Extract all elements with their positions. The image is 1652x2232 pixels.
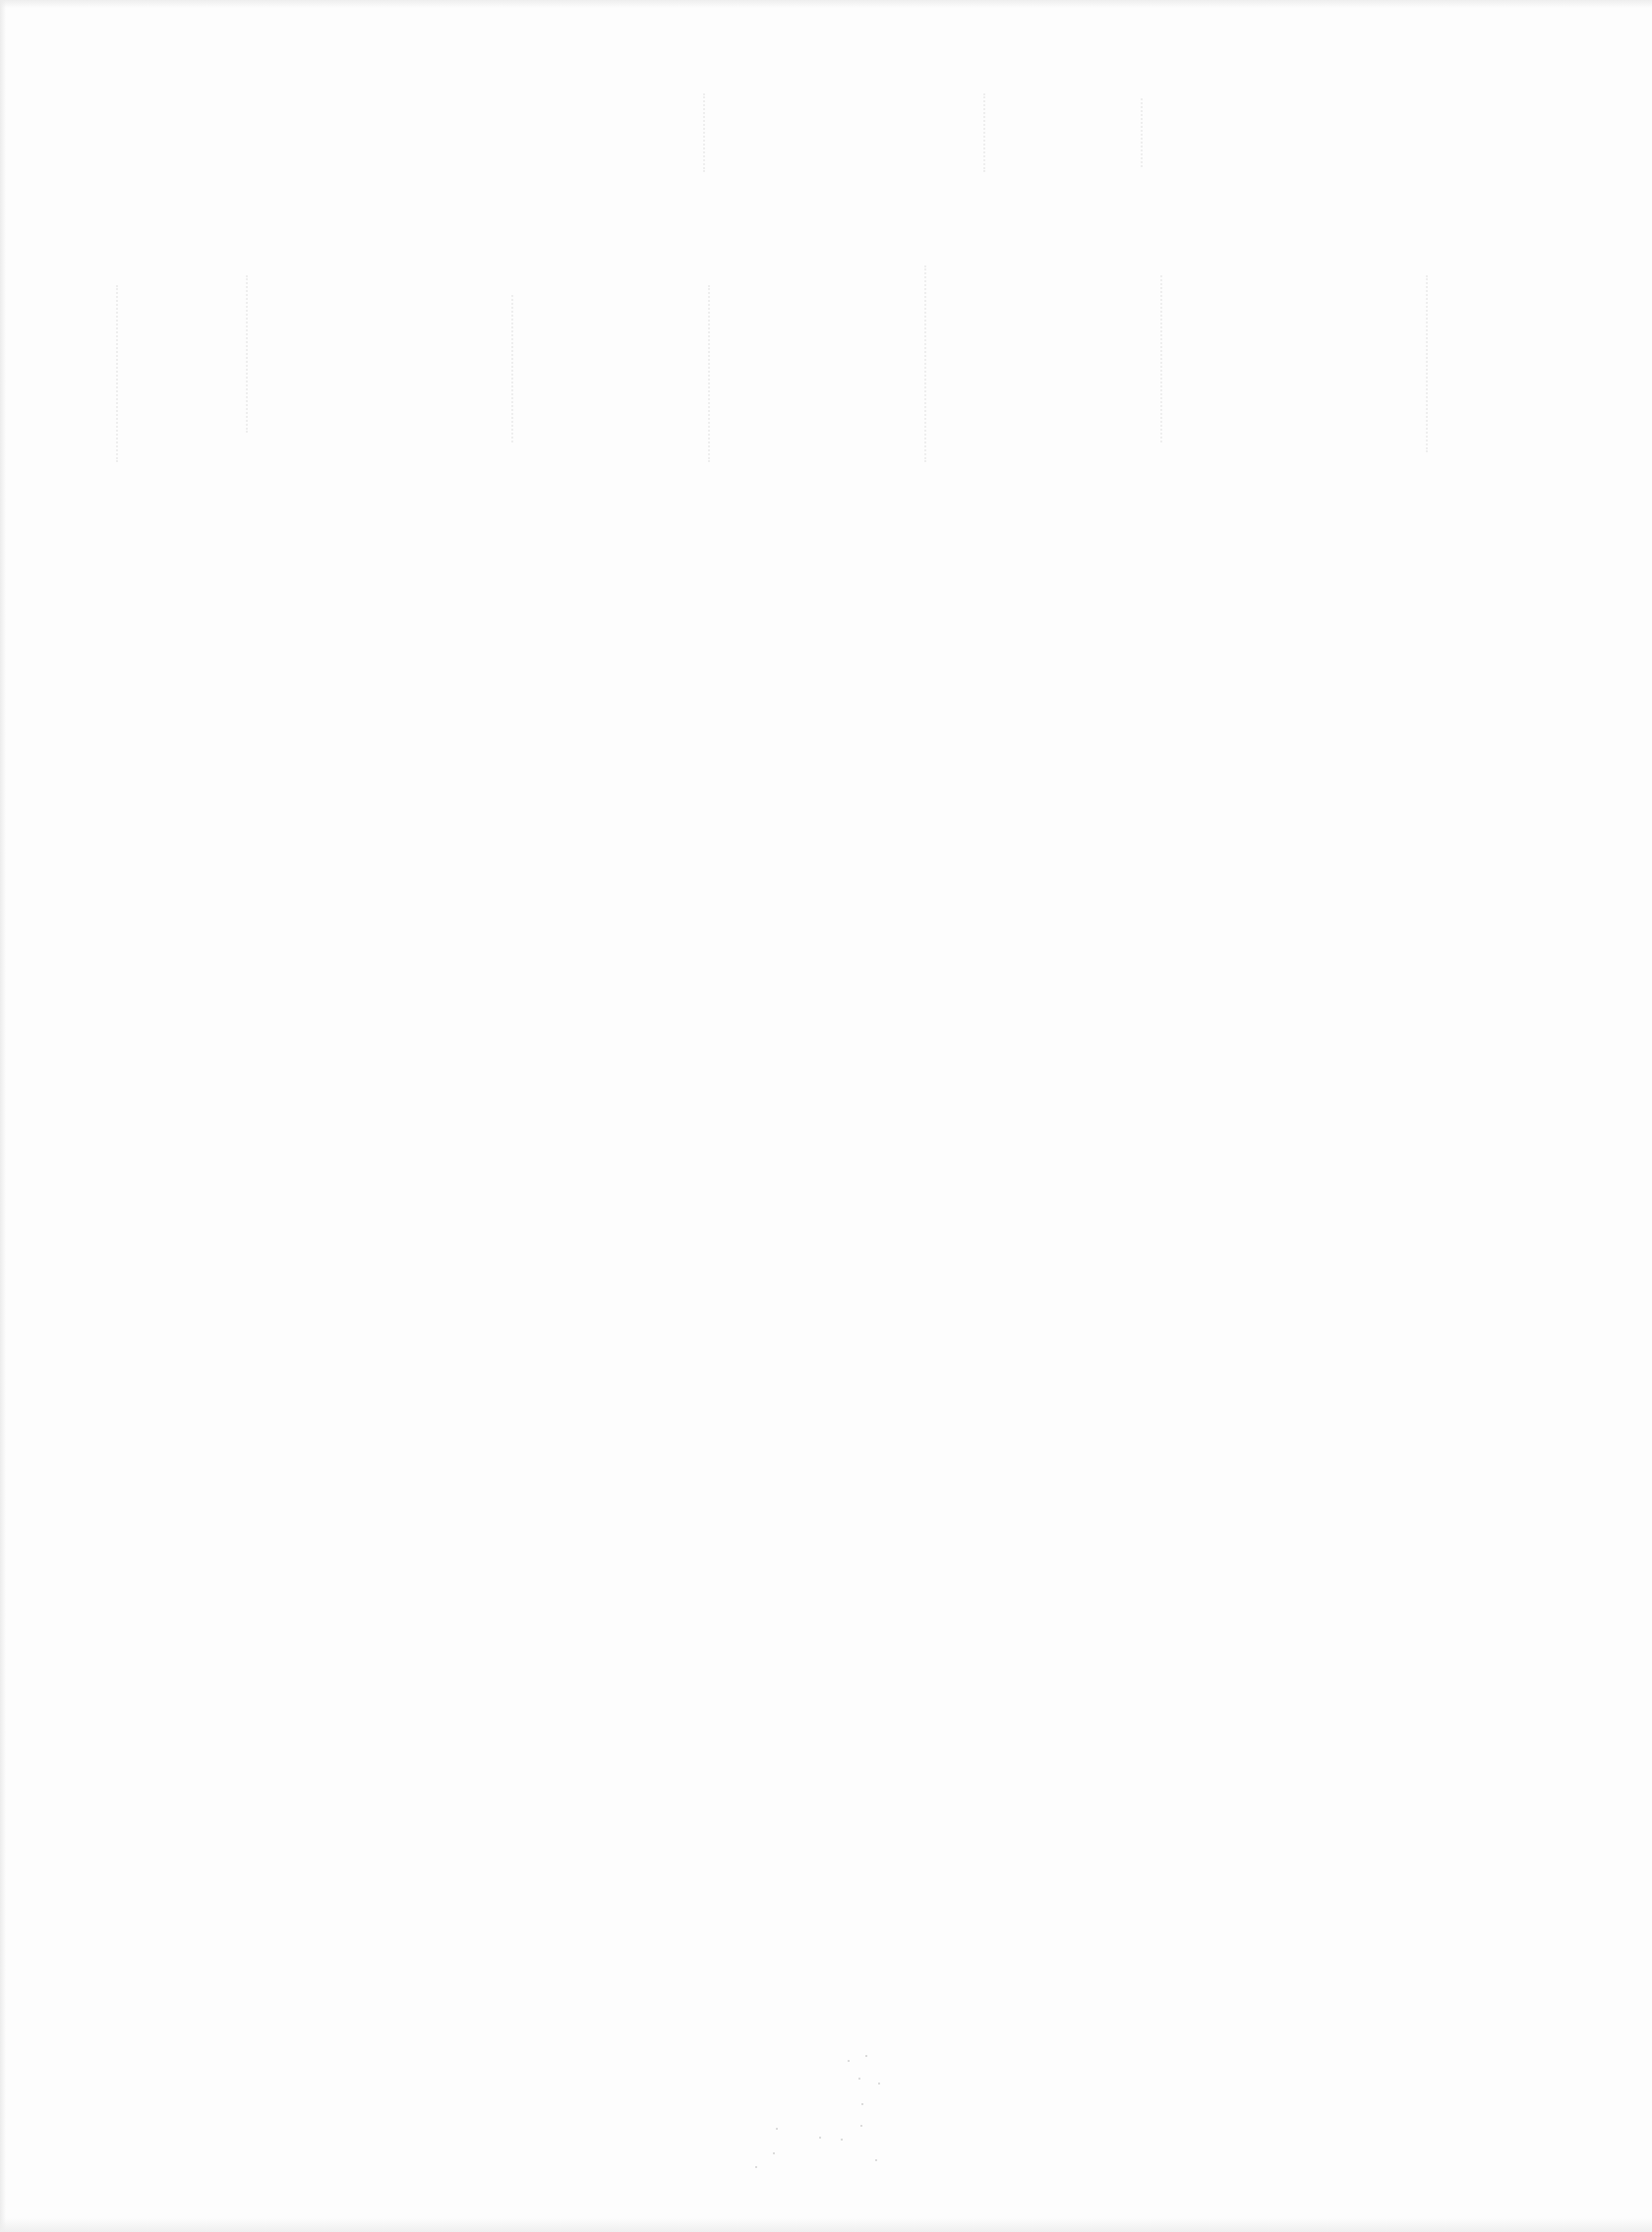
bleed-through-stroke — [983, 93, 985, 172]
blank-scanned-page — [0, 0, 1652, 2232]
scan-edge-top — [0, 0, 1652, 8]
bleed-through-stroke — [246, 275, 248, 433]
scan-edge-bottom — [0, 2218, 1652, 2232]
bleed-through-stroke — [1160, 275, 1162, 442]
bleed-through-stroke — [1141, 98, 1143, 167]
bleed-through-stroke — [116, 285, 118, 462]
bleed-through-stroke — [924, 265, 926, 462]
bleed-through-stroke — [1426, 275, 1428, 452]
scan-edge-left — [0, 0, 6, 2232]
bleed-through-stroke — [703, 93, 705, 172]
bleed-through-stroke — [708, 285, 710, 462]
bleed-through-stroke — [511, 295, 513, 442]
